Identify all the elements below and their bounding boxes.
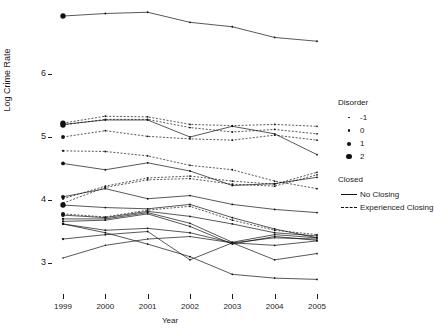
data-point (189, 124, 191, 126)
data-point (189, 236, 191, 238)
data-point (232, 242, 234, 244)
trajectory-line (63, 237, 317, 258)
data-point (104, 207, 106, 209)
data-point (147, 135, 149, 137)
y-tick-label: 4 (22, 194, 46, 204)
data-point (274, 180, 276, 182)
legend-label: 1 (360, 139, 364, 148)
data-point (104, 130, 106, 132)
data-point (189, 195, 191, 197)
legend-title-closed: Closed (338, 175, 434, 184)
data-point (231, 26, 233, 28)
legend-item-closed[interactable]: Experienced Closing (338, 201, 434, 214)
data-point (61, 162, 65, 166)
data-point (316, 253, 318, 255)
data-point (189, 136, 191, 138)
data-point (189, 232, 191, 234)
data-point (104, 151, 106, 153)
legend-item-disorder[interactable]: -1 (338, 111, 434, 124)
data-point (147, 198, 149, 200)
trajectory-line (63, 214, 317, 244)
data-point (274, 259, 276, 261)
data-point (189, 178, 191, 180)
trajectory-line (63, 189, 317, 213)
legend-item-disorder[interactable]: 0 (338, 124, 434, 137)
data-point (104, 13, 106, 15)
legend-group-disorder: -1012 (338, 111, 434, 163)
x-tick-label: 2000 (85, 302, 125, 311)
data-point (104, 169, 106, 171)
legend-label: 2 (360, 152, 364, 161)
data-point (147, 213, 149, 215)
data-point (61, 135, 65, 139)
data-point (104, 234, 106, 236)
data-point (104, 229, 106, 231)
data-point (147, 177, 149, 179)
line-style-icon (338, 207, 360, 208)
y-axis-label: Log Crime Rate (2, 20, 12, 140)
data-point (104, 219, 106, 221)
data-point (61, 123, 65, 127)
x-tick-mark (275, 294, 276, 299)
data-point (189, 215, 191, 217)
data-point (316, 174, 318, 176)
data-point (274, 232, 276, 234)
data-point (274, 229, 276, 231)
data-point (231, 125, 233, 127)
x-tick-label: 2003 (212, 302, 252, 311)
data-point (62, 150, 64, 152)
data-point (105, 245, 107, 247)
data-point (316, 176, 318, 178)
data-point (104, 115, 106, 117)
x-tick-mark (105, 294, 106, 299)
x-tick-label: 2005 (297, 302, 337, 311)
legend-item-disorder[interactable]: 2 (338, 150, 434, 163)
legend-item-closed[interactable]: No Closing (338, 188, 434, 201)
data-point (316, 171, 318, 173)
data-point (316, 154, 318, 156)
data-point (147, 179, 149, 181)
trajectory-line (63, 12, 317, 41)
x-tick-label: 2002 (170, 302, 210, 311)
disorder-dot-icon (338, 142, 360, 146)
legend-label: -1 (360, 113, 367, 122)
data-point (231, 180, 233, 182)
data-point (316, 125, 318, 127)
data-point (147, 116, 149, 118)
legend: Disorder -1012 Closed No ClosingExperien… (338, 98, 434, 214)
data-point (316, 133, 318, 135)
chart-root: Log Crime Rate 3456 19992000200120022003… (0, 0, 434, 333)
data-point (60, 13, 65, 18)
data-point (231, 139, 233, 141)
data-point (61, 213, 65, 217)
data-point (316, 40, 318, 42)
data-point (189, 170, 191, 172)
disorder-dot-icon (338, 117, 360, 119)
data-point (189, 226, 191, 228)
trajectory-line (63, 119, 317, 133)
data-point (274, 185, 276, 187)
data-point (104, 232, 106, 234)
x-tick-mark (190, 294, 191, 299)
data-point (274, 134, 276, 136)
x-tick-mark (317, 294, 318, 299)
line-style-icon (338, 194, 360, 195)
x-tick-mark (63, 294, 64, 299)
y-tick-mark (48, 137, 52, 138)
legend-item-disorder[interactable]: 1 (338, 137, 434, 150)
y-tick-label: 3 (22, 257, 46, 267)
data-point (189, 256, 191, 258)
data-point (147, 155, 149, 157)
data-point (274, 129, 276, 131)
data-point (231, 217, 233, 219)
data-point (189, 21, 191, 23)
data-point (274, 37, 276, 39)
data-point (316, 139, 318, 141)
y-tick-mark (48, 263, 52, 264)
data-point (316, 188, 318, 190)
data-point (274, 244, 276, 246)
y-tick-label: 5 (22, 131, 46, 141)
y-tick-mark (48, 74, 52, 75)
data-point (189, 204, 191, 206)
data-point (189, 205, 191, 207)
